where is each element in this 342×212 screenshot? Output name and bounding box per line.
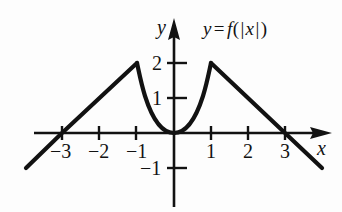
y-tick-label-1: 1 [152, 88, 162, 108]
equation-equals-sign: = [212, 18, 227, 39]
y-axis [168, 18, 180, 207]
y-axis-arrow-icon [168, 18, 180, 40]
x-tick-label-pos3: 3 [280, 141, 290, 161]
y-axis-ticks [167, 63, 187, 168]
y-tick-label-2: 2 [152, 53, 162, 73]
y-axis-label: y [157, 17, 166, 37]
function-graph-figure: −3 −2 −1 1 2 3 2 1 −1 y x y=f(|x|) [0, 0, 342, 212]
equation-lhs: y [203, 18, 212, 39]
x-tick-label-neg2: −2 [88, 141, 109, 161]
x-tick-label-pos2: 2 [243, 141, 253, 161]
x-tick-label-neg3: −3 [50, 141, 71, 161]
curve-equation-label: y=f(|x|) [203, 19, 267, 38]
x-tick-label-pos1: 1 [206, 141, 216, 161]
curve-right-fall [211, 63, 322, 168]
equation-close-paren: ) [261, 18, 268, 39]
y-tick-label-neg1: −1 [140, 158, 161, 178]
curve-left-fall [26, 63, 137, 168]
x-axis-label: x [317, 138, 326, 158]
plot-canvas [0, 0, 342, 212]
